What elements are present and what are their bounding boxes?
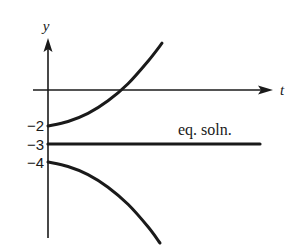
y-tick-label-neg3: −3 <box>27 136 44 153</box>
eq-soln-annotation: eq. soln. <box>178 121 232 139</box>
y-tick-label-neg2: −2 <box>27 117 44 134</box>
solution-curve-upper <box>48 43 162 126</box>
axes <box>33 38 273 238</box>
x-axis-label: t <box>280 82 285 98</box>
y-axis-label: y <box>41 18 50 34</box>
series-group <box>48 43 260 243</box>
solution-curve-lower <box>48 162 160 243</box>
y-tick-label-neg4: −4 <box>27 154 44 171</box>
chart: y t −2 −3 −4 eq. soln. <box>0 0 299 252</box>
labels-group: y t −2 −3 −4 eq. soln. <box>27 18 285 171</box>
